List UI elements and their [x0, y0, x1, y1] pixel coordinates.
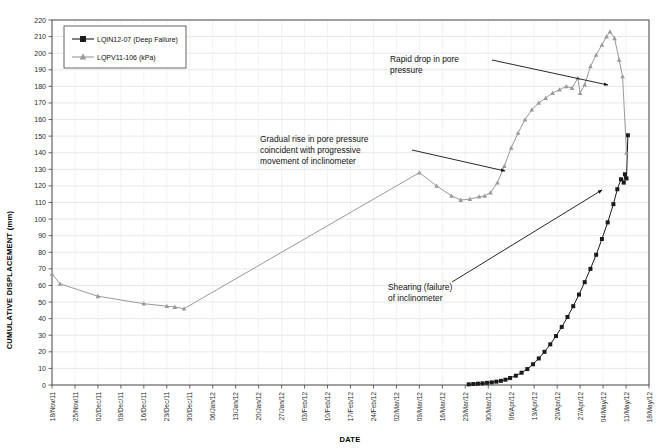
annotation-line: movement of inclinometer: [260, 156, 356, 166]
data-point-marker: [467, 382, 471, 386]
y-tick-label: 80: [38, 249, 46, 256]
data-point-marker: [481, 381, 485, 385]
legend-box: [64, 26, 186, 68]
x-tick-label: 11/May/12: [623, 392, 631, 422]
y-tick-label: 130: [34, 166, 46, 173]
y-tick-label: 20: [38, 348, 46, 355]
data-point-marker: [600, 237, 604, 241]
annotation-line: pressure: [390, 65, 423, 75]
data-point-marker: [490, 380, 494, 384]
data-point-marker: [622, 181, 626, 185]
x-tick-label: 06/Apr/12: [508, 392, 516, 421]
y-tick-label: 150: [34, 133, 46, 140]
y-tick-label: 50: [38, 299, 46, 306]
data-point-marker: [577, 293, 581, 297]
y-tick-label: 170: [34, 99, 46, 106]
y-tick-label: 160: [34, 116, 46, 123]
chart-screenshot: 0102030405060708090100110120130140150160…: [0, 0, 662, 448]
x-tick-label: 27/Jan/12: [278, 392, 285, 421]
x-tick-label: 09/Dec/11: [117, 392, 124, 422]
data-point-marker: [611, 202, 615, 206]
y-tick-label: 40: [38, 315, 46, 322]
x-tick-label: 18/Nov/11: [49, 392, 56, 422]
annotation-line: of inclinometer: [388, 293, 443, 303]
y-tick-label: 70: [38, 265, 46, 272]
x-tick-label: 13/Jan/12: [232, 392, 239, 421]
data-point-marker: [537, 356, 541, 360]
annotation-line: Rapid drop in pore: [390, 54, 459, 64]
y-tick-label: 220: [34, 17, 46, 24]
x-tick-label: 25/Nov/11: [72, 392, 79, 422]
x-tick-label: 16/Mar/12: [439, 392, 446, 422]
y-tick-label: 0: [42, 382, 46, 389]
data-point-marker: [531, 362, 535, 366]
x-tick-label: 06/Jan/12: [209, 392, 216, 421]
y-axis-title: CUMULATIVE DISPLACEMENT (mm): [5, 210, 14, 349]
data-point-marker: [623, 172, 627, 176]
y-tick-label: 210: [34, 33, 46, 40]
annotation-line: Gradual rise in pore pressure: [260, 134, 369, 144]
x-tick-label: 23/Dec/11: [163, 392, 170, 422]
data-point-marker: [615, 187, 619, 191]
x-tick-label: 03/Feb/12: [301, 392, 308, 422]
x-tick-label: 02/Dec/11: [95, 392, 102, 422]
y-tick-label: 190: [34, 66, 46, 73]
data-point-marker: [476, 382, 480, 386]
y-tick-label: 120: [34, 182, 46, 189]
cumulative-displacement-chart: 0102030405060708090100110120130140150160…: [0, 0, 662, 448]
y-tick-label: 10: [38, 365, 46, 372]
x-tick-label: 16/Dec/11: [140, 392, 147, 422]
data-point-marker: [594, 253, 598, 257]
data-point-marker: [626, 133, 630, 137]
data-point-marker: [548, 342, 552, 346]
data-point-marker: [554, 334, 558, 338]
data-point-marker: [571, 304, 575, 308]
y-tick-label: 200: [34, 50, 46, 57]
data-point-marker: [514, 374, 518, 378]
data-point-marker: [525, 367, 529, 371]
y-tick-label: 30: [38, 332, 46, 339]
x-tick-label: 13/Apr/12: [531, 392, 539, 421]
x-tick-label: 10/Feb/12: [324, 392, 331, 422]
x-tick-label: 04/May/12: [600, 392, 608, 423]
data-point-marker: [625, 176, 629, 180]
y-tick-label: 100: [34, 216, 46, 223]
x-tick-label: 20/Jan/12: [255, 392, 262, 421]
data-point-marker: [508, 376, 512, 380]
chart-legend[interactable]: LQIN12-07 (Deep Failure) LQPV11-106 (kPa…: [64, 26, 186, 68]
data-point-marker: [588, 267, 592, 271]
data-point-marker: [606, 220, 610, 224]
data-point-marker: [543, 350, 547, 354]
data-point-marker: [471, 382, 475, 386]
annotation-line: coincident with progressive: [260, 145, 361, 155]
y-tick-label: 110: [35, 199, 46, 206]
data-point-marker: [565, 315, 569, 319]
data-point-marker: [485, 381, 489, 385]
x-tick-label: 18/May/12: [646, 392, 654, 423]
legend-label-inclinometer: LQIN12-07 (Deep Failure): [97, 36, 178, 44]
data-point-marker: [494, 380, 498, 384]
data-point-marker: [520, 371, 524, 375]
x-tick-label: 30/Mar/12: [485, 392, 492, 422]
x-tick-label: 27/Apr/12: [577, 392, 585, 421]
annotation-line: Shearing (failure): [388, 282, 452, 292]
y-tick-label: 90: [38, 232, 46, 239]
x-tick-label: 17/Feb/12: [347, 392, 354, 422]
legend-label-piezometer: LQPV11-106 (kPa): [97, 54, 156, 62]
x-tick-label: 09/Mar/12: [416, 392, 423, 422]
y-tick-label: 60: [38, 282, 46, 289]
x-tick-label: 23/Mar/12: [462, 392, 469, 422]
data-point-marker: [503, 378, 507, 382]
data-point-marker: [583, 280, 587, 284]
annotation-text: Gradual rise in pore pressurecoincident …: [260, 134, 369, 166]
x-axis-title: DATE: [339, 435, 360, 444]
legend-marker-square-icon: [80, 36, 86, 42]
y-tick-label: 180: [34, 83, 46, 90]
x-tick-label: 02/Mar/12: [393, 392, 400, 422]
data-point-marker: [499, 379, 503, 383]
y-tick-label: 140: [34, 149, 46, 156]
x-tick-label: 30/Dec/11: [186, 392, 193, 422]
x-tick-label: 20/Apr/12: [554, 392, 562, 421]
x-tick-label: 24/Feb/12: [370, 392, 377, 422]
data-point-marker: [560, 325, 564, 329]
